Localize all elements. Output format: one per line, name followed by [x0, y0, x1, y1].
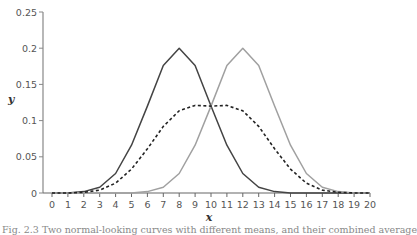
x-tick-label: 10 — [205, 199, 217, 210]
x-tick-label: 2 — [81, 199, 87, 210]
series-group — [52, 48, 370, 193]
x-tick-label: 13 — [253, 199, 265, 210]
series-line-dark-solid — [52, 48, 370, 193]
x-tick-label: 20 — [364, 199, 376, 210]
x-tick-label: 4 — [113, 199, 119, 210]
series-line-dashed-mixture — [52, 105, 370, 193]
x-tick-label: 16 — [300, 199, 312, 210]
x-tick-label: 18 — [332, 199, 344, 210]
x-tick-label: 6 — [144, 199, 150, 210]
y-tick-label: 0.2 — [22, 43, 37, 54]
x-tick-label: 7 — [160, 199, 166, 210]
x-tick-label: 8 — [176, 199, 182, 210]
y-tick-label: 0.25 — [16, 7, 37, 18]
y-tick-label: 0.05 — [16, 151, 37, 162]
x-tick-label: 15 — [284, 199, 296, 210]
x-tick-label: 19 — [348, 199, 360, 210]
x-tick-label: 14 — [269, 199, 281, 210]
series-line-light-solid — [52, 48, 370, 193]
x-axis-title: x — [205, 211, 213, 222]
x-tick-label: 17 — [316, 199, 328, 210]
y-axis: 00.050.10.150.20.25 — [16, 7, 43, 199]
x-axis: 01234567891011121314151617181920 — [43, 193, 376, 210]
y-tick-label: 0.15 — [16, 79, 37, 90]
y-tick-label: 0 — [31, 188, 37, 199]
y-tick-label: 0.1 — [22, 115, 37, 126]
x-tick-label: 9 — [192, 199, 198, 210]
figure-caption: Fig. 2.3 Two normal-looking curves with … — [2, 224, 417, 235]
x-tick-label: 0 — [49, 199, 55, 210]
x-tick-label: 1 — [65, 199, 71, 210]
x-tick-label: 3 — [97, 199, 103, 210]
chart: 00.050.10.150.20.25 01234567891011121314… — [0, 0, 383, 222]
y-axis-title: y — [7, 93, 16, 106]
x-tick-label: 12 — [237, 199, 249, 210]
x-tick-label: 5 — [128, 199, 134, 210]
x-tick-label: 11 — [221, 199, 233, 210]
